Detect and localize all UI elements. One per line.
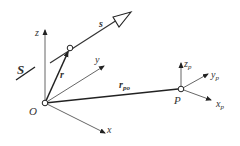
label-y: y xyxy=(94,54,100,65)
label-zp: zp xyxy=(183,58,192,71)
point-P xyxy=(178,86,184,92)
label-r-po: rpo xyxy=(119,79,130,92)
label-xp: xp xyxy=(215,98,224,111)
frame-diagram: S z y x s r rpo O zp yp xp P xyxy=(0,0,240,146)
label-P: P xyxy=(173,94,181,106)
label-x: x xyxy=(106,124,112,135)
label-S: S xyxy=(17,62,24,77)
arrowhead-s-icon xyxy=(113,12,131,27)
label-s: s xyxy=(98,18,103,29)
label-r: r xyxy=(60,69,64,80)
line-s xyxy=(50,20,117,63)
label-yp: yp xyxy=(210,69,219,82)
origin-O xyxy=(42,100,48,106)
axis-x xyxy=(45,103,105,133)
point-on-s xyxy=(67,45,73,51)
label-z: z xyxy=(34,27,39,38)
vector-r-po xyxy=(45,89,178,103)
axis-xp xyxy=(181,89,211,100)
axis-yp xyxy=(181,74,208,89)
label-O: O xyxy=(29,105,37,117)
